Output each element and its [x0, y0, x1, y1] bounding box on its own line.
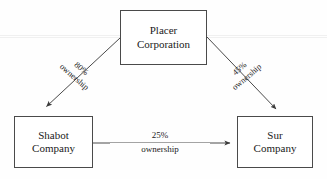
node-placer-corporation: Placer Corporation: [120, 10, 207, 65]
edge-relation-shabot-to-sur: ownership: [110, 143, 210, 156]
node-sur-name-line-1: Sur: [267, 129, 282, 142]
edge-label-placer-to-shabot: 80% ownership: [48, 44, 109, 101]
diagram-canvas: Placer Corporation Shabot Company Sur Co…: [0, 0, 327, 179]
edge-label-placer-to-sur: 45% ownership: [213, 44, 274, 101]
node-shabot-name-line-1: Shabot: [38, 129, 69, 142]
edge-percent-shabot-to-sur: 25%: [110, 129, 210, 142]
node-placer-name-line-1: Placer: [150, 24, 177, 37]
node-shabot-name-line-2: Company: [32, 142, 75, 155]
node-placer-name-line-2: Corporation: [137, 38, 190, 51]
edge-label-shabot-to-sur: 25% ownership: [110, 129, 210, 156]
node-sur-name-line-2: Company: [254, 142, 297, 155]
node-sur-company: Sur Company: [237, 116, 313, 168]
node-shabot-company: Shabot Company: [14, 116, 93, 168]
